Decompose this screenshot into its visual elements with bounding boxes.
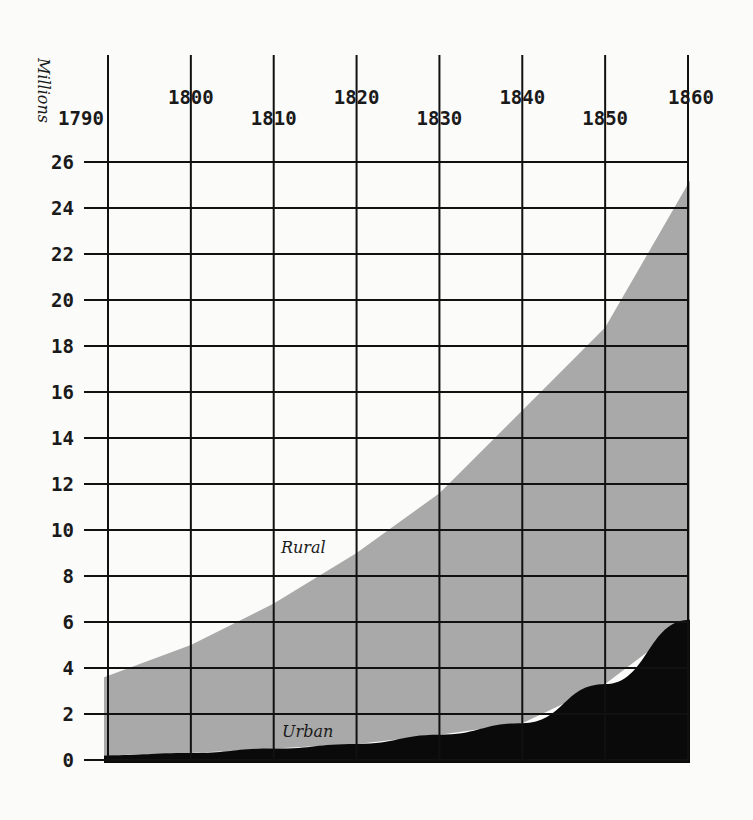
y-tick-label-4: 4 <box>63 657 74 679</box>
y-tick-label-0: 0 <box>63 749 74 771</box>
y-tick-label-12: 12 <box>51 473 74 495</box>
y-tick-label-14: 14 <box>51 427 74 449</box>
x-tick-label-1820: 1820 <box>334 86 380 108</box>
y-tick-label-18: 18 <box>51 335 74 357</box>
y-tick-label-24: 24 <box>51 197 74 219</box>
series-label-urban: Urban <box>282 722 333 741</box>
y-tick-label-6: 6 <box>63 611 74 633</box>
x-tick-label-1810: 1810 <box>251 107 297 129</box>
x-tick-label-1850: 1850 <box>582 107 628 129</box>
x-tick-label-1790: 1790 <box>58 107 104 129</box>
x-tick-label-1860: 1860 <box>668 86 714 108</box>
y-tick-label-8: 8 <box>63 565 74 587</box>
y-tick-label-16: 16 <box>51 381 74 403</box>
y-tick-label-20: 20 <box>51 289 74 311</box>
x-tick-label-1840: 1840 <box>499 86 545 108</box>
x-tick-label-1800: 1800 <box>168 86 214 108</box>
y-tick-label-10: 10 <box>51 519 74 541</box>
area-rural <box>104 180 690 755</box>
y-tick-label-2: 2 <box>63 703 74 725</box>
x-tick-labels: 17901800181018201830184018501860 <box>58 86 714 129</box>
y-axis-title: Millions <box>34 57 53 123</box>
y-tick-label-26: 26 <box>51 151 74 173</box>
y-tick-labels: 02468101214161820222426 <box>51 151 74 771</box>
x-tick-label-1830: 1830 <box>417 107 463 129</box>
series-label-rural: Rural <box>280 538 326 557</box>
area-layer <box>104 180 690 763</box>
y-tick-label-22: 22 <box>51 243 74 265</box>
population-chart: 02468101214161820222426 1790180018101820… <box>0 0 753 820</box>
